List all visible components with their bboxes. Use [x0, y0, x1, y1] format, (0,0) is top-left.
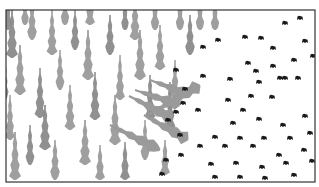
deforestation-illustration — [0, 0, 319, 187]
